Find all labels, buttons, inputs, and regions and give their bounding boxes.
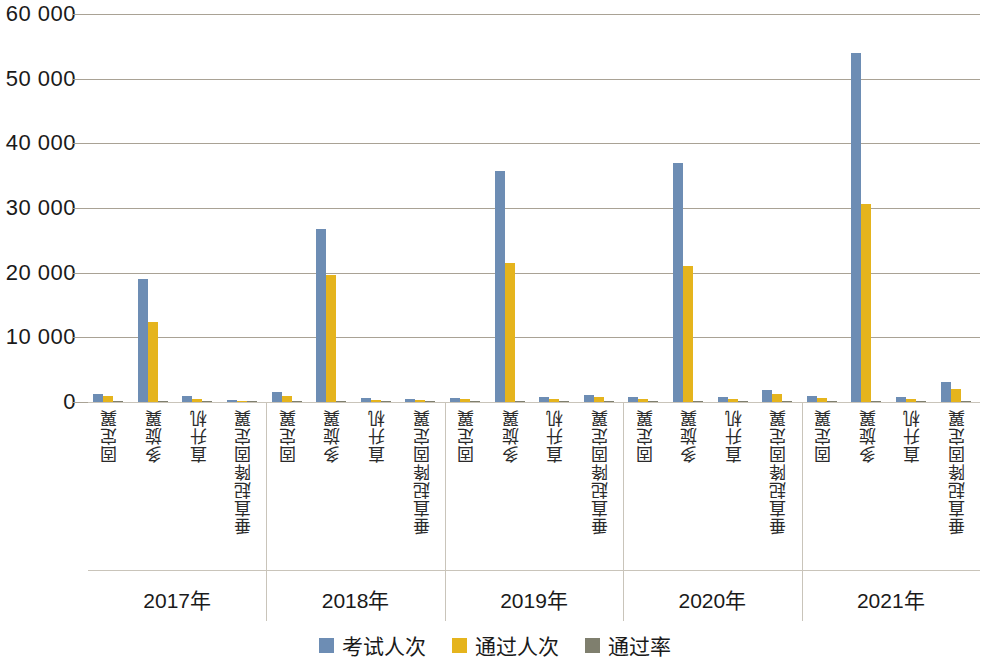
bar-cluster bbox=[311, 14, 356, 402]
category-axis: 固定翼多旋翼直升机垂直起降固定翼固定翼多旋翼直升机垂直起降固定翼固定翼多旋翼直升… bbox=[88, 402, 980, 571]
bar-group bbox=[88, 14, 266, 402]
bar[interactable] bbox=[495, 171, 505, 403]
bar[interactable] bbox=[851, 53, 861, 402]
category-label: 固定翼 bbox=[280, 409, 298, 463]
category-label: 多旋翼 bbox=[324, 409, 342, 463]
year-axis: 2017年2018年2019年2020年2021年 bbox=[88, 570, 980, 621]
bar-cluster bbox=[266, 14, 311, 402]
y-axis-tick-label: 0 bbox=[0, 389, 76, 415]
category-label: 固定翼 bbox=[101, 409, 119, 463]
bar-cluster bbox=[445, 14, 490, 402]
category-axis-separator bbox=[623, 403, 624, 571]
y-axis-tick-label: 20 000 bbox=[0, 260, 76, 286]
year-label: 2017年 bbox=[88, 584, 266, 614]
bar-cluster bbox=[802, 14, 847, 402]
bar-cluster bbox=[177, 14, 222, 402]
category-label: 垂直起降固定翼 bbox=[770, 409, 788, 535]
legend-swatch-icon bbox=[319, 638, 334, 653]
y-axis-tick-mark bbox=[72, 208, 88, 209]
category-label: 固定翼 bbox=[637, 409, 655, 463]
bar-cluster bbox=[846, 14, 891, 402]
y-axis-tick-mark bbox=[72, 337, 88, 338]
bar-cluster bbox=[757, 14, 802, 402]
category-label: 垂直起降固定翼 bbox=[414, 409, 432, 535]
bar[interactable] bbox=[316, 229, 326, 402]
legend-label: 通过率 bbox=[608, 630, 671, 660]
y-axis-tick-mark bbox=[72, 79, 88, 80]
bar[interactable] bbox=[861, 204, 871, 402]
bar[interactable] bbox=[138, 279, 148, 403]
y-axis-tick-label: 40 000 bbox=[0, 130, 76, 156]
category-label: 垂直起降固定翼 bbox=[235, 409, 253, 535]
bar-cluster bbox=[88, 14, 133, 402]
category-label: 垂直起降固定翼 bbox=[949, 409, 967, 535]
category-label: 直升机 bbox=[191, 409, 209, 463]
bar[interactable] bbox=[951, 389, 961, 402]
bar-group bbox=[266, 14, 444, 402]
category-label: 多旋翼 bbox=[146, 409, 164, 463]
category-label: 多旋翼 bbox=[503, 409, 521, 463]
legend-swatch-icon bbox=[585, 638, 600, 653]
category-label: 多旋翼 bbox=[681, 409, 699, 463]
bar-cluster bbox=[668, 14, 713, 402]
bar[interactable] bbox=[584, 395, 594, 402]
category-label: 直升机 bbox=[904, 409, 922, 463]
bar-cluster bbox=[356, 14, 401, 402]
y-axis-tick-mark bbox=[72, 402, 88, 403]
bar[interactable] bbox=[272, 392, 282, 402]
y-axis-tick-mark bbox=[72, 14, 88, 15]
bar-cluster bbox=[133, 14, 178, 402]
category-axis-separator bbox=[445, 403, 446, 571]
year-label: 2021年 bbox=[802, 584, 980, 614]
bar-cluster bbox=[623, 14, 668, 402]
chart-legend: 考试人次通过人次通过率 bbox=[0, 630, 990, 660]
bar[interactable] bbox=[148, 322, 158, 402]
y-axis-tick-label: 50 000 bbox=[0, 66, 76, 92]
bar-group bbox=[623, 14, 801, 402]
y-axis-tick-mark bbox=[72, 273, 88, 274]
bar-cluster bbox=[891, 14, 936, 402]
bar-cluster bbox=[400, 14, 445, 402]
bar[interactable] bbox=[941, 382, 951, 402]
category-label: 多旋翼 bbox=[860, 409, 878, 463]
legend-swatch-icon bbox=[452, 638, 467, 653]
category-label: 直升机 bbox=[547, 409, 565, 463]
y-axis-tick-label: 30 000 bbox=[0, 195, 76, 221]
bar-cluster bbox=[579, 14, 624, 402]
bar[interactable] bbox=[326, 275, 336, 402]
bar-cluster bbox=[489, 14, 534, 402]
y-axis-tick-label: 60 000 bbox=[0, 1, 76, 27]
y-axis-tick-mark bbox=[72, 143, 88, 144]
legend-item[interactable]: 通过率 bbox=[585, 630, 671, 660]
year-label: 2018年 bbox=[266, 584, 444, 614]
bar-cluster bbox=[222, 14, 267, 402]
year-label: 2019年 bbox=[445, 584, 623, 614]
bar[interactable] bbox=[762, 390, 772, 402]
category-label: 直升机 bbox=[726, 409, 744, 463]
category-label: 固定翼 bbox=[815, 409, 833, 463]
bar[interactable] bbox=[772, 394, 782, 402]
bar[interactable] bbox=[505, 263, 515, 402]
bar[interactable] bbox=[673, 163, 683, 402]
bar-group bbox=[445, 14, 623, 402]
chart-root: 010 00020 00030 00040 00050 00060 000 固定… bbox=[0, 0, 990, 668]
bar-cluster bbox=[935, 14, 980, 402]
y-axis-tick-label: 10 000 bbox=[0, 324, 76, 350]
category-label: 垂直起降固定翼 bbox=[592, 409, 610, 535]
category-label: 固定翼 bbox=[458, 409, 476, 463]
bar-group bbox=[802, 14, 980, 402]
bar[interactable] bbox=[683, 266, 693, 402]
category-label: 直升机 bbox=[369, 409, 387, 463]
legend-label: 考试人次 bbox=[342, 630, 426, 660]
bar[interactable] bbox=[93, 394, 103, 402]
bar-cluster bbox=[712, 14, 757, 402]
legend-label: 通过人次 bbox=[475, 630, 559, 660]
category-axis-separator bbox=[266, 403, 267, 571]
legend-item[interactable]: 通过人次 bbox=[452, 630, 559, 660]
category-axis-separator bbox=[802, 403, 803, 571]
bar-cluster bbox=[534, 14, 579, 402]
legend-item[interactable]: 考试人次 bbox=[319, 630, 426, 660]
plot-area bbox=[88, 14, 980, 402]
year-label: 2020年 bbox=[623, 584, 801, 614]
